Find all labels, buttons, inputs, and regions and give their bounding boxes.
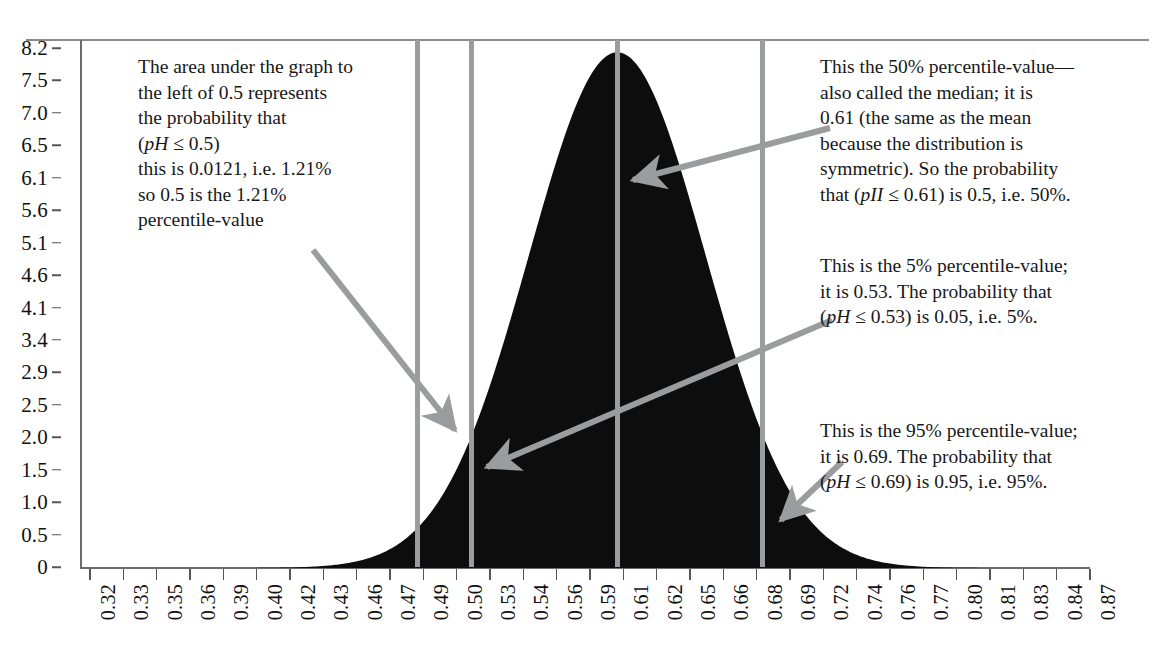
x-tick-mark xyxy=(623,569,625,580)
x-tick-mark xyxy=(989,569,991,580)
x-tick-label: 0.39 xyxy=(230,584,253,620)
y-tick-label: 0 xyxy=(37,555,48,580)
x-tick-mark xyxy=(123,569,125,580)
annotation-50-percentile: This the 50% percentile-value—also calle… xyxy=(820,54,1150,207)
y-tick-mark xyxy=(52,339,61,341)
y-tick-mark xyxy=(52,177,61,179)
variable-symbol: pII xyxy=(861,184,884,205)
x-tick-label: 0.74 xyxy=(864,584,887,620)
chart-figure: 8.27.57.06.56.15.65.14.64.13.42.92.52.01… xyxy=(0,0,1167,651)
x-tick-mark xyxy=(856,569,858,580)
annotation-line: percentile-value xyxy=(138,207,438,233)
variable-symbol: pH xyxy=(827,471,851,492)
annotation-5-percentile: This is the 5% percentile-value;it is 0.… xyxy=(820,253,1150,330)
x-tick-mark xyxy=(923,569,925,580)
y-tick-mark xyxy=(52,372,61,374)
y-tick-mark xyxy=(52,534,61,536)
x-tick-mark xyxy=(523,569,525,580)
y-tick-mark xyxy=(52,307,61,309)
y-tick-mark xyxy=(52,80,61,82)
annotation-line: This is the 95% percentile-value; xyxy=(820,418,1150,444)
annotation-line: The area under the graph to xyxy=(138,54,438,80)
annotation-line: that (pII ≤ 0.61) is 0.5, i.e. 50%. xyxy=(820,182,1150,208)
y-tick-label: 2.0 xyxy=(21,425,48,450)
x-tick-mark xyxy=(589,569,591,580)
y-tick-label: 6.1 xyxy=(21,165,48,190)
x-tick-label: 0.47 xyxy=(397,584,420,620)
x-tick-label: 0.66 xyxy=(730,584,753,620)
variable-symbol: pH xyxy=(827,306,851,327)
x-tick-mark xyxy=(256,569,258,580)
x-tick-mark xyxy=(823,569,825,580)
x-tick-mark xyxy=(1023,569,1025,580)
y-axis: 8.27.57.06.56.15.65.14.64.13.42.92.52.01… xyxy=(0,0,78,651)
y-tick-label: 2.5 xyxy=(21,392,48,417)
annotation-line: this is 0.0121, i.e. 1.21% xyxy=(138,156,438,182)
x-tick-label: 0.32 xyxy=(97,584,120,620)
x-tick-label: 0.56 xyxy=(564,584,587,620)
annotation-line: This the 50% percentile-value— xyxy=(820,54,1150,80)
y-tick-label: 4.1 xyxy=(21,295,48,320)
y-tick-mark xyxy=(52,437,61,439)
x-tick-label: 0.35 xyxy=(164,584,187,620)
x-tick-mark xyxy=(156,569,158,580)
variable-symbol: pH xyxy=(145,133,169,154)
annotation-line: (pH ≤ 0.53) is 0.05, i.e. 5%. xyxy=(820,304,1150,330)
x-tick-label: 0.69 xyxy=(797,584,820,620)
x-tick-mark xyxy=(1056,569,1058,580)
annotation-line: because the distribution is xyxy=(820,131,1150,157)
x-tick-label: 0.59 xyxy=(597,584,620,620)
x-tick-mark xyxy=(223,569,225,580)
annotation-1-21-percentile: The area under the graph tothe left of 0… xyxy=(138,54,438,233)
x-tick-label: 0.49 xyxy=(430,584,453,620)
x-tick-label: 0.33 xyxy=(130,584,153,620)
x-tick-label: 0.80 xyxy=(964,584,987,620)
annotation-line: also called the median; it is xyxy=(820,80,1150,106)
annotation-line: This is the 5% percentile-value; xyxy=(820,253,1150,279)
percentile-line-95 xyxy=(760,40,765,567)
x-tick-mark xyxy=(289,569,291,580)
y-tick-label: 0.5 xyxy=(21,522,48,547)
y-tick-mark xyxy=(52,145,61,147)
x-tick-mark xyxy=(456,569,458,580)
x-tick-label: 0.40 xyxy=(264,584,287,620)
y-tick-label: 3.4 xyxy=(21,327,48,352)
y-tick-mark xyxy=(52,112,61,114)
y-tick-label: 5.1 xyxy=(21,230,48,255)
x-tick-label: 0.61 xyxy=(630,584,653,620)
x-tick-label: 0.76 xyxy=(897,584,920,620)
x-tick-mark xyxy=(1089,569,1091,580)
y-tick-label: 7.0 xyxy=(21,100,48,125)
y-tick-label: 4.6 xyxy=(21,263,48,288)
x-tick-label: 0.54 xyxy=(530,584,553,620)
y-tick-mark xyxy=(52,209,61,211)
x-tick-label: 0.65 xyxy=(697,584,720,620)
y-tick-label: 7.5 xyxy=(21,68,48,93)
x-tick-label: 0.42 xyxy=(297,584,320,620)
x-tick-label: 0.87 xyxy=(1097,584,1120,620)
x-tick-mark xyxy=(189,569,191,580)
x-tick-mark xyxy=(556,569,558,580)
y-tick-mark xyxy=(52,469,61,471)
percentile-line-5 xyxy=(469,40,474,567)
x-tick-mark xyxy=(756,569,758,580)
x-tick-label: 0.43 xyxy=(330,584,353,620)
x-tick-label: 0.81 xyxy=(997,584,1020,620)
annotation-line: it is 0.69. The probability that xyxy=(820,444,1150,470)
y-tick-mark xyxy=(52,404,61,406)
x-tick-mark xyxy=(89,569,91,580)
x-tick-mark xyxy=(889,569,891,580)
y-tick-label: 5.6 xyxy=(21,198,48,223)
x-tick-label: 0.36 xyxy=(197,584,220,620)
x-tick-mark xyxy=(789,569,791,580)
y-tick-label: 6.5 xyxy=(21,133,48,158)
annotation-line: (pH ≤ 0.69) is 0.95, i.e. 95%. xyxy=(820,469,1150,495)
y-tick-mark xyxy=(52,566,61,568)
x-tick-mark xyxy=(423,569,425,580)
x-tick-label: 0.46 xyxy=(364,584,387,620)
annotation-line: 0.61 (the same as the mean xyxy=(820,105,1150,131)
percentile-line-50 xyxy=(615,40,620,567)
annotation-95-percentile: This is the 95% percentile-value;it is 0… xyxy=(820,418,1150,495)
x-tick-label: 0.68 xyxy=(764,584,787,620)
y-tick-mark xyxy=(52,47,61,49)
